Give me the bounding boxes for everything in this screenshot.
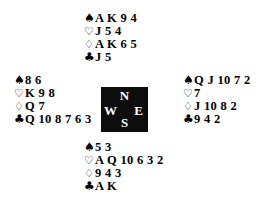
heart-icon: ♡ [14,87,25,100]
compass-south-label: S [101,116,148,129]
hand-east-clubs-row: ♣ 9 4 2 [183,113,250,126]
bridge-hand-diagram: ♠ A K 9 4 ♡ J 5 4 ♢ A K 6 5 ♣ J 5 ♠ 8 6 … [0,0,263,209]
hand-north: ♠ A K 9 4 ♡ J 5 4 ♢ A K 6 5 ♣ J 5 [84,12,137,64]
heart-icon: ♡ [183,87,194,100]
club-icon: ♣ [84,180,95,193]
spade-icon: ♠ [183,74,194,87]
hand-south-clubs: A K [95,180,117,193]
hand-east: ♠ Q J 10 7 2 ♡ 7 ♢ J 10 8 2 ♣ 9 4 2 [183,74,250,126]
heart-icon: ♡ [84,25,95,38]
club-icon: ♣ [84,51,95,64]
club-icon: ♣ [14,113,25,126]
hand-north-clubs: J 5 [95,51,112,64]
hand-west: ♠ 8 6 ♡ K 9 8 ♢ Q 7 ♣ Q 10 8 7 6 3 [14,74,91,126]
hand-north-clubs-row: ♣ J 5 [84,51,137,64]
hand-south-clubs-row: ♣ A K [84,180,164,193]
spade-icon: ♠ [84,12,95,25]
hand-east-spades: Q J 10 7 2 [194,74,250,87]
compass-north-label: N [101,89,148,102]
hand-west-clubs-row: ♣ Q 10 8 7 6 3 [14,113,91,126]
club-icon: ♣ [183,113,194,126]
compass-rose: N W E S [101,87,148,132]
hand-west-clubs: Q 10 8 7 6 3 [25,113,91,126]
hand-south: ♠ 5 3 ♡ A Q 10 6 3 2 ♢ 9 4 3 ♣ A K [84,141,164,193]
hand-east-clubs: 9 4 2 [194,113,221,126]
spade-icon: ♠ [14,74,25,87]
spade-icon: ♠ [84,141,95,154]
heart-icon: ♡ [84,154,95,167]
